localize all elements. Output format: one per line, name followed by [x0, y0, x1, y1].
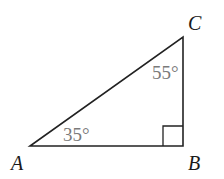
vertex-a-label: A: [9, 152, 24, 174]
vertex-c-label: C: [188, 12, 202, 34]
angle-a-label: 35°: [63, 124, 90, 145]
angle-c-label: 55°: [152, 62, 179, 83]
right-angle-marker: [163, 126, 183, 146]
triangle-diagram: 35° 55° A B C: [0, 0, 224, 179]
vertex-b-label: B: [188, 152, 200, 174]
triangle-abc: [30, 37, 183, 146]
